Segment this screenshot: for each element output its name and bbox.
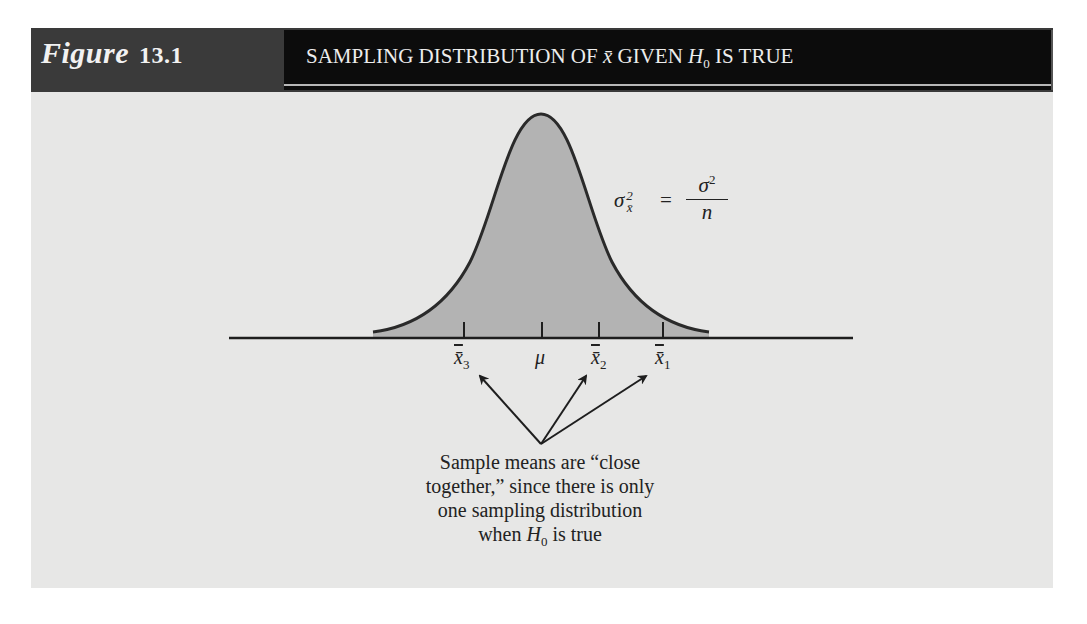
arrows bbox=[480, 376, 646, 444]
arrow-to-x1 bbox=[541, 376, 646, 444]
caption-line4-suffix: is true bbox=[547, 523, 601, 545]
mu-symbol: μ bbox=[535, 346, 545, 368]
formula-lhs-sub: x̄ bbox=[627, 200, 633, 215]
annotation-caption: Sample means are “close together,” since… bbox=[390, 450, 690, 554]
arrow-to-x3 bbox=[480, 376, 541, 444]
formula-equals: = bbox=[660, 188, 672, 213]
formula-sigma: σ bbox=[614, 188, 624, 212]
caption-line-4: when H0 is true bbox=[390, 522, 690, 554]
formula-denominator: n bbox=[686, 200, 728, 225]
formula-supsub: 2x̄ bbox=[626, 190, 633, 214]
axis-label-x1: x̄1 bbox=[655, 346, 670, 373]
caption-h-symbol: H bbox=[526, 523, 540, 545]
caption-line-2: together,” since there is only bbox=[390, 474, 690, 498]
caption-line-1: Sample means are “close bbox=[390, 450, 690, 474]
x3-symbol: x̄ bbox=[454, 346, 463, 368]
formula-numerator-sup: 2 bbox=[709, 172, 716, 187]
x1-symbol: x̄ bbox=[655, 346, 664, 368]
axis-label-x2: x̄2 bbox=[591, 346, 606, 373]
x3-subscript: 3 bbox=[463, 357, 470, 372]
caption-line-3: one sampling distribution bbox=[390, 498, 690, 522]
formula-numerator: σ2 bbox=[686, 172, 728, 200]
caption-line4-prefix: when bbox=[478, 523, 526, 545]
axis-label-mu: μ bbox=[535, 346, 545, 369]
arrow-to-x2 bbox=[541, 376, 586, 444]
formula-lhs: σ2x̄ bbox=[614, 188, 633, 214]
formula-numerator-sigma: σ bbox=[699, 173, 709, 197]
x2-symbol: x̄ bbox=[591, 346, 600, 368]
formula-fraction: σ2 n bbox=[686, 172, 728, 225]
normal-curve-fill bbox=[373, 114, 709, 338]
x2-subscript: 2 bbox=[600, 357, 607, 372]
axis-label-x3: x̄3 bbox=[454, 346, 469, 373]
x1-subscript: 1 bbox=[664, 357, 671, 372]
